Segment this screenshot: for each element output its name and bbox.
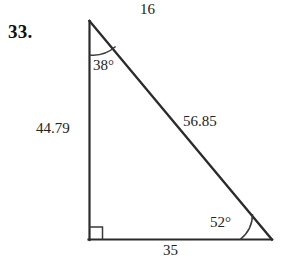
- right-angle-icon: [90, 227, 103, 240]
- angle-label-apex: 38°: [93, 58, 114, 73]
- side-label-left: 44.79: [36, 121, 70, 136]
- angle-arc-icon-bottom-right: [240, 214, 253, 240]
- angle-label-bottom-right: 52°: [210, 215, 231, 230]
- problem-number: 33.: [8, 22, 33, 41]
- side-label-top: 16: [140, 2, 155, 17]
- side-label-hypotenuse: 56.85: [183, 114, 217, 129]
- side-label-bottom: 35: [163, 243, 178, 258]
- triangle-hypotenuse: [90, 21, 273, 240]
